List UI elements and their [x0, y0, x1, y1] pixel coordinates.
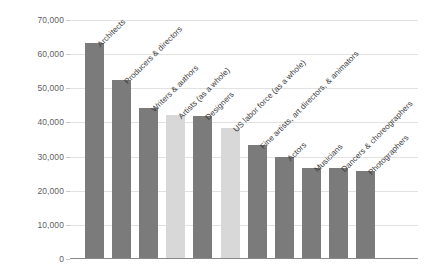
- x-axis-line: [70, 258, 418, 259]
- y-tick-label: 10,000: [4, 220, 64, 230]
- y-axis-tick-labels: 010,00020,00030,00040,00050,00060,00070,…: [0, 20, 64, 259]
- y-tick-label: 50,000: [4, 83, 64, 93]
- bar[interactable]: [85, 43, 104, 258]
- bar[interactable]: [166, 115, 185, 258]
- y-tick-label: 70,000: [4, 15, 64, 25]
- bar[interactable]: [356, 171, 375, 258]
- bar[interactable]: [112, 80, 131, 258]
- gridline: [70, 54, 418, 55]
- bar-chart: Median Wage, $ 010,00020,00030,00040,000…: [0, 0, 426, 278]
- bar[interactable]: [329, 168, 348, 258]
- bar[interactable]: [275, 157, 294, 258]
- bar[interactable]: [302, 168, 321, 258]
- bar[interactable]: [248, 145, 267, 258]
- y-tick-label: 20,000: [4, 186, 64, 196]
- y-tick-mark: [66, 259, 70, 260]
- y-tick-label: 0: [4, 254, 64, 264]
- y-tick-label: 40,000: [4, 117, 64, 127]
- y-tick-label: 30,000: [4, 152, 64, 162]
- bar[interactable]: [139, 108, 158, 258]
- bar[interactable]: [193, 116, 212, 258]
- bar[interactable]: [221, 128, 240, 258]
- y-tick-label: 60,000: [4, 49, 64, 59]
